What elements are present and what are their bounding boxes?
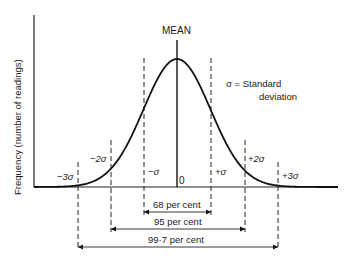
- zero-label: 0: [179, 175, 185, 186]
- sigma-label-plus2: +2σ: [248, 153, 265, 164]
- mean-label: MEAN: [162, 25, 191, 36]
- range-label-997: 99·7 per cent: [148, 234, 204, 245]
- y-axis-label: Frequency (number of readings): [12, 59, 23, 195]
- sigma-label-plus3: +3σ: [282, 170, 299, 181]
- range-label-68: 68 per cent: [153, 199, 201, 210]
- sigma-label-plus1: +σ: [215, 166, 226, 177]
- legend-line2: deviation: [259, 91, 297, 102]
- sigma-label-minus3: −3σ: [57, 171, 74, 182]
- bell-curve: [34, 59, 338, 187]
- sigma-label-minus2: −2σ: [90, 153, 107, 164]
- normal-distribution-diagram: [0, 0, 354, 270]
- legend-line1: σ = Standard: [226, 78, 281, 89]
- sigma-label-minus1: −σ: [148, 166, 159, 177]
- range-label-95: 95 per cent: [154, 216, 202, 227]
